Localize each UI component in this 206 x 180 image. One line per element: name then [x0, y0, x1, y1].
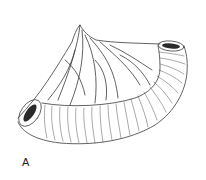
intestine-lower-edge	[18, 46, 187, 144]
panel-label: A	[22, 156, 29, 168]
mesentery-outline	[18, 25, 160, 118]
intestine-illustration	[0, 0, 206, 180]
left-lumen	[21, 103, 39, 124]
right-lumen	[162, 43, 180, 50]
